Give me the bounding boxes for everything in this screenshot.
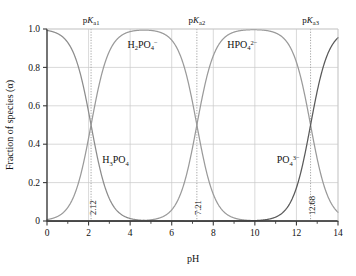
x-tick-label: 0 bbox=[45, 228, 50, 238]
chart-background bbox=[0, 0, 356, 276]
y-tick-label: 0.4 bbox=[28, 139, 40, 149]
x-tick-label: 8 bbox=[211, 228, 216, 238]
x-tick-label: 2 bbox=[86, 228, 91, 238]
x-tick-label: 4 bbox=[128, 228, 133, 238]
species-label-H2PO4-: H2PO4− bbox=[128, 39, 159, 51]
pka-value-2: 7.21 bbox=[193, 200, 203, 215]
pka-value-1: 2.12 bbox=[88, 200, 98, 215]
svg-text:pH: pH bbox=[187, 253, 199, 264]
pka-value-3: 12.68 bbox=[307, 196, 317, 215]
speciation-figure: 00.20.40.60.81.002468101214 pKa12.12pKa2… bbox=[0, 0, 356, 276]
svg-text:Fraction of species (α): Fraction of species (α) bbox=[4, 80, 16, 170]
x-tick-label: 14 bbox=[333, 228, 343, 238]
speciation-chart: 00.20.40.60.81.002468101214 pKa12.12pKa2… bbox=[0, 0, 356, 276]
x-tick-label: 6 bbox=[169, 228, 174, 238]
y-tick-label: 0.6 bbox=[28, 101, 40, 111]
y-tick-label: 0.2 bbox=[28, 178, 40, 188]
x-tick-label: 12 bbox=[292, 228, 302, 238]
y-tick-label: 1.0 bbox=[28, 24, 40, 34]
x-tick-label: 10 bbox=[250, 228, 260, 238]
x-axis-title: pH bbox=[187, 253, 199, 264]
species-label-H3PO4: H3PO4 bbox=[102, 154, 129, 166]
y-tick-label: 0.8 bbox=[28, 63, 40, 73]
y-tick-label: 0 bbox=[35, 216, 40, 226]
y-axis-title: Fraction of species (α) bbox=[4, 80, 16, 170]
